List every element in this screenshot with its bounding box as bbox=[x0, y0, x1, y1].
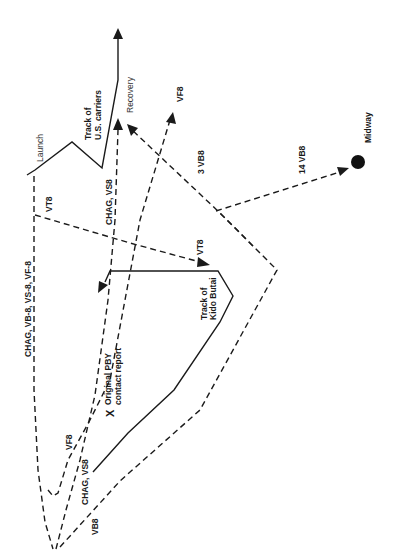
route-14-vb8 bbox=[216, 172, 340, 211]
14-vb8-arrowhead bbox=[337, 167, 349, 176]
routes bbox=[27, 28, 349, 549]
label-kido-track-2: Kido Butai bbox=[208, 278, 218, 321]
label-vf8-top: VF8 bbox=[175, 86, 185, 102]
vt8-arrowhead bbox=[197, 257, 210, 267]
label-pby-2: contact report bbox=[113, 348, 123, 405]
label-vf8-bottom: VF8 bbox=[64, 434, 74, 450]
label-us-track-2: U.S. carriers bbox=[93, 90, 103, 140]
kido-butai-arrowhead bbox=[98, 281, 108, 293]
label-chag-vs8-top: CHAG, VS8 bbox=[104, 179, 114, 225]
route-vb8 bbox=[60, 213, 277, 547]
label-launch: Launch bbox=[35, 134, 45, 162]
chag-vs8-arrowhead bbox=[113, 118, 123, 130]
us-carriers-arrowhead bbox=[113, 28, 123, 39]
battle-map: Launch Track of U.S. carriers Recovery V… bbox=[0, 0, 402, 559]
label-chag-vs8-bottom: CHAG, VS8 bbox=[80, 459, 90, 505]
label-vt8-right: VT8 bbox=[195, 239, 205, 255]
label-us-track-1: Track of bbox=[83, 107, 93, 140]
midway-marker bbox=[351, 155, 365, 169]
route-3-vb8 bbox=[130, 128, 253, 246]
label-recovery: Recovery bbox=[125, 76, 135, 113]
vf8-arrowhead bbox=[166, 112, 176, 124]
pby-contact-marker: X bbox=[104, 409, 116, 417]
label-pby-1: Original PBY bbox=[103, 353, 113, 405]
label-14-vb8: 14 VB8 bbox=[297, 145, 307, 174]
route-vt8 bbox=[35, 215, 200, 262]
label-vb8-bottom: VB8 bbox=[90, 518, 100, 535]
label-chag-group: CHAG, VB-8, VS-8, VF-8 bbox=[23, 261, 33, 357]
label-3-vb8: 3 VB8 bbox=[196, 150, 206, 174]
label-midway: Midway bbox=[363, 112, 373, 143]
label-vt8-left: VT8 bbox=[44, 196, 54, 212]
